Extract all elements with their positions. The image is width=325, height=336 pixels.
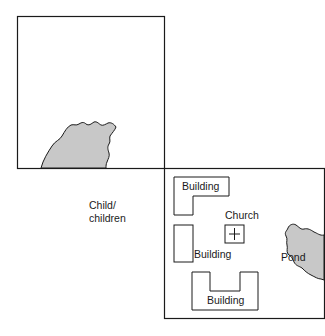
- child-label-line2: children: [89, 212, 126, 224]
- parent-tile: [18, 17, 165, 169]
- child-label-line1: Child/: [89, 199, 116, 211]
- building-label-middle: Building: [194, 248, 232, 260]
- building-label-top: Building: [182, 180, 220, 192]
- building-rect: [174, 225, 193, 262]
- map-tiles-diagram: Child/ children Building Building Buildi…: [0, 0, 325, 336]
- building-label-bottom: Building: [207, 294, 245, 306]
- church-label: Church: [225, 209, 259, 221]
- pond-label: Pond: [281, 251, 306, 263]
